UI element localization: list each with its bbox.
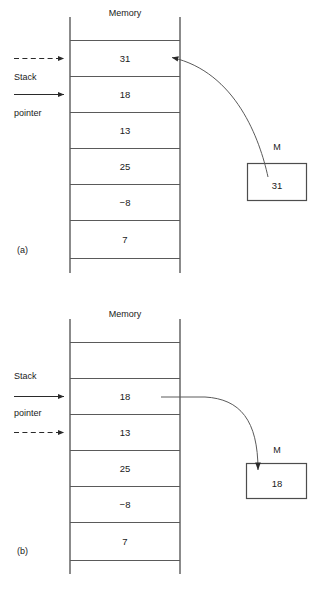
push-arrow-curve-a [172,58,268,178]
register-value-b: 18 [272,479,283,489]
memory-column-title-a: Memory [109,9,142,18]
memory-cell-b-2: 13 [120,428,131,438]
stack-pointer-label-top-a: Stack [14,73,37,82]
memory-column-title-b: Memory [109,310,142,319]
panel-label-a: (a) [17,246,28,255]
panel-b-graphics [14,319,307,574]
register-label-a: M [273,143,281,152]
memory-cell-a-0: 31 [120,54,131,64]
stack-pointer-label-bottom-a: pointer [14,109,42,118]
panel-label-b: (b) [17,547,28,556]
register-value-a: 31 [272,181,283,191]
memory-cell-a-1: 18 [120,90,131,100]
memory-cell-a-3: 25 [120,162,131,172]
stack-pointer-label-bottom-b: pointer [14,409,42,418]
pop-arrow-curve-b [161,397,258,470]
panel-a-graphics [14,17,307,273]
memory-cell-b-5: 7 [122,537,127,547]
memory-cell-a-2: 13 [120,126,131,136]
memory-cell-b-1: 18 [120,392,131,402]
diagram-vector-layer [0,0,320,589]
memory-cell-b-3: 25 [120,464,131,474]
stack-pointer-label-top-b: Stack [14,372,37,381]
memory-cell-a-5: 7 [122,235,127,245]
register-label-b: M [273,446,281,455]
memory-cell-a-4: −8 [120,198,131,208]
memory-cell-b-4: −8 [120,500,131,510]
stack-diagram-figure: Memory 31 18 13 25 −8 7 Stack pointer M … [0,0,320,589]
